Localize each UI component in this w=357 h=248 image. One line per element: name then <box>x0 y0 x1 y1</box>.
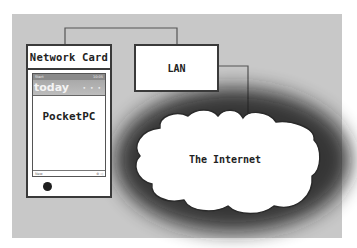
network-card-node: Network Card Start 10:05 today • • • Poc… <box>26 44 112 198</box>
new-label: New <box>35 172 43 176</box>
pocketpc-screen: Start 10:05 today • • • PocketPC New ⊕ ◁ <box>32 73 106 177</box>
pocketpc-label: PocketPC <box>33 110 105 123</box>
today-banner: today • • • <box>33 80 105 96</box>
today-label: today <box>34 81 69 94</box>
today-dots-icon: • • • <box>83 84 102 91</box>
pocketpc-command-bar: New ⊕ ◁ <box>33 170 105 176</box>
lan-label: LAN <box>167 63 185 74</box>
tray-icons: ⊕ ◁ <box>96 172 103 176</box>
clock-label: 10:05 <box>93 75 103 79</box>
lan-node: LAN <box>134 44 219 92</box>
home-button-icon <box>43 182 52 191</box>
start-menu-label: Start <box>35 75 44 79</box>
internet-label: The Internet <box>160 154 290 165</box>
edge-networkcard-lan <box>65 28 177 44</box>
network-card-label: Network Card <box>28 46 110 70</box>
